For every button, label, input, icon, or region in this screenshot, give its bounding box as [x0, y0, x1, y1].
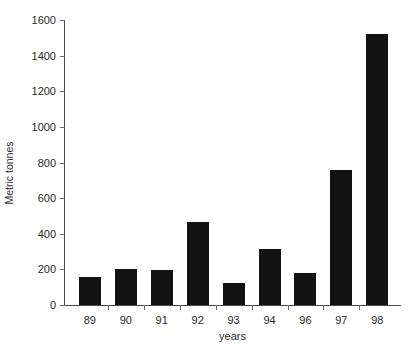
x-tick-mark	[359, 305, 360, 310]
bar	[79, 277, 101, 305]
plot-area: 02004006008001000120014001600 8990919293…	[64, 20, 401, 306]
y-tick-label: 600	[8, 190, 56, 206]
y-tick-label: 800	[8, 155, 56, 171]
y-tick-label: 1200	[8, 83, 56, 99]
x-tick-mark	[323, 305, 324, 310]
y-tick-mark	[60, 198, 65, 199]
y-tick-mark	[60, 20, 65, 21]
bar	[294, 273, 316, 305]
y-tick-label: 0	[8, 297, 56, 313]
y-tick-mark	[60, 269, 65, 270]
x-axis-title: years	[64, 330, 401, 342]
y-tick-mark	[60, 91, 65, 92]
y-tick-label: 200	[8, 261, 56, 277]
y-tick-mark	[60, 56, 65, 57]
x-tick-mark	[252, 305, 253, 310]
y-tick-mark	[60, 305, 65, 306]
x-tick-mark	[108, 305, 109, 310]
bar	[259, 249, 281, 305]
bar	[115, 269, 137, 305]
x-tick-label: 94	[250, 314, 290, 326]
x-tick-mark	[180, 305, 181, 310]
x-tick-label: 93	[214, 314, 254, 326]
bar	[366, 34, 388, 305]
y-tick-mark	[60, 234, 65, 235]
y-tick-mark	[60, 127, 65, 128]
x-tick-label: 97	[321, 314, 361, 326]
x-axis-line	[64, 305, 401, 306]
bar	[187, 222, 209, 305]
bar-chart: Metric tonnes 02004006008001000120014001…	[0, 0, 416, 355]
x-tick-label: 91	[142, 314, 182, 326]
x-tick-mark	[288, 305, 289, 310]
bar	[151, 270, 173, 305]
x-tick-label: 92	[178, 314, 218, 326]
x-tick-label: 89	[70, 314, 110, 326]
y-tick-label: 1600	[8, 12, 56, 28]
x-tick-label: 90	[106, 314, 146, 326]
bar	[223, 283, 245, 305]
x-tick-mark	[216, 305, 217, 310]
y-tick-label: 1400	[8, 48, 56, 64]
bar	[330, 170, 352, 305]
y-tick-mark	[60, 163, 65, 164]
y-tick-label: 400	[8, 226, 56, 242]
x-tick-label: 98	[357, 314, 397, 326]
x-tick-label: 96	[285, 314, 325, 326]
y-tick-label: 1000	[8, 119, 56, 135]
x-tick-mark	[144, 305, 145, 310]
